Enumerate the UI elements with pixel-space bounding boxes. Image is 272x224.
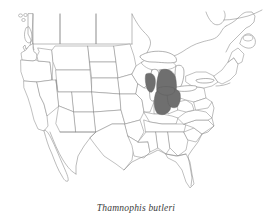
lake-superior-outline [140, 51, 177, 63]
state-colorado [72, 92, 94, 112]
state-new-mexico [74, 112, 96, 132]
canada-north-border-path [33, 14, 132, 44]
state-oregon [21, 60, 52, 82]
figure-page: Thamnophis butleri [0, 0, 272, 224]
state-north-dakota [88, 46, 116, 62]
state-south-dakota [90, 62, 118, 78]
range-map-figure: Thamnophis butleri [0, 0, 272, 224]
san-juan-island-2-icon [24, 14, 28, 17]
san-juan-island-3-icon [22, 19, 26, 22]
state-new-england [214, 58, 238, 84]
state-nebraska [92, 78, 120, 94]
gulf-of-california-path [50, 132, 76, 174]
state-west-virginia [178, 100, 194, 112]
state-wyoming [56, 70, 92, 92]
hudson-inlet-path [206, 11, 225, 25]
nova-scotia-island-icon [243, 35, 253, 41]
state-alabama [156, 132, 170, 154]
state-florida [166, 154, 194, 188]
state-georgia [168, 132, 188, 156]
state-montana [52, 46, 90, 70]
san-juan-island-1-icon [19, 14, 23, 17]
mexico-outline-group [44, 130, 96, 181]
figure-caption: Thamnophis butleri [0, 203, 272, 213]
us-range-map [0, 0, 272, 200]
baja-california-path [44, 130, 68, 181]
lake-ontario-outline [196, 79, 214, 84]
western-states-group [21, 44, 96, 132]
state-kansas [92, 92, 121, 112]
newfoundland-arm-path [224, 10, 262, 20]
